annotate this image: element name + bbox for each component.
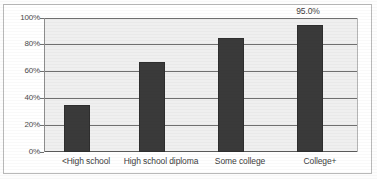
x-category-label-3: College+	[270, 156, 370, 166]
bar-college-plus[interactable]	[297, 25, 323, 152]
gridline-100	[45, 18, 357, 19]
plot-area	[44, 18, 358, 152]
bar-high-school-less[interactable]	[64, 105, 90, 152]
y-tick-label-100: 100%	[0, 14, 40, 22]
category-axis-band: <High school High school diploma Some co…	[44, 153, 358, 172]
bar-value-label-3: 95.0%	[284, 7, 332, 16]
y-tick-label-0: 0%	[0, 148, 40, 156]
bar-chart-figure: 100% 80% 60% 40% 20% 0% 35.0% 67.0% 85.0…	[0, 0, 377, 179]
y-tick-label-80: 80%	[0, 40, 40, 48]
bar-high-school-diploma[interactable]	[139, 62, 165, 152]
y-tick-label-60: 60%	[0, 67, 40, 75]
y-tick-label-40: 40%	[0, 94, 40, 102]
y-tick-label-20: 20%	[0, 121, 40, 129]
bar-some-college[interactable]	[218, 38, 244, 152]
